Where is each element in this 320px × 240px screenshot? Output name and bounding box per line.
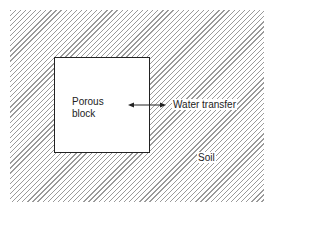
water-transfer-text: Water transfer: [172, 99, 237, 110]
soil-text: Soil: [197, 152, 216, 163]
porous-block-label: Porous block: [72, 96, 132, 120]
soil-label: Soil: [197, 152, 216, 164]
double-arrow-icon: [128, 99, 166, 111]
porous-block-label-line2: block: [72, 108, 132, 120]
water-transfer-label: Water transfer: [172, 99, 237, 111]
porous-block-label-line1: Porous: [72, 96, 132, 108]
